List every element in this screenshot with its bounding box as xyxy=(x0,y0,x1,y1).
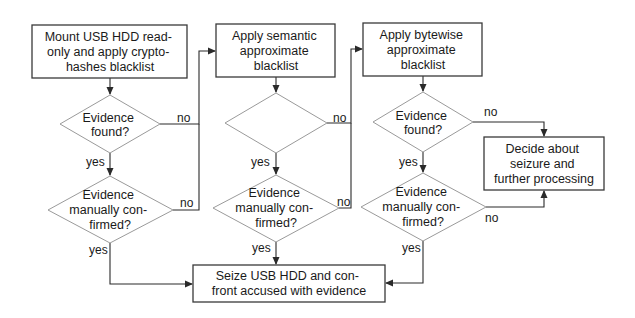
label-q2-found-yes: yes xyxy=(251,155,270,169)
edge-q1-confirmed-yes xyxy=(110,243,192,284)
node-text-line: Decide about xyxy=(505,142,579,156)
label-q2-confirmed-no: no xyxy=(337,195,351,209)
label-q3-confirmed-yes: yes xyxy=(402,241,421,255)
label-q1-found-yes: yes xyxy=(86,155,105,169)
decision-q2-evidence-confirmed: Evidence manually con- firmed? xyxy=(213,175,339,242)
node-text-line: found? xyxy=(91,125,129,139)
node-text-line: firmed? xyxy=(89,218,131,232)
edges xyxy=(110,49,544,284)
node-text-line: Evidence xyxy=(249,186,300,200)
node-text-line: Evidence xyxy=(83,188,134,202)
edge-q3-found-no xyxy=(473,122,544,136)
node-text-line: Apply semantic xyxy=(232,29,317,43)
decision-q3-evidence-confirmed: Evidence manually con- firmed? xyxy=(361,173,486,241)
label-q1-confirmed-no: no xyxy=(180,196,194,210)
decision-q1-evidence-found: Evidence found? xyxy=(60,95,160,153)
node-text-line: Evidence xyxy=(83,111,134,125)
label-q1-found-no: no xyxy=(177,111,191,125)
node-text-line: seizure and xyxy=(510,157,575,171)
label-q2-confirmed-yes: yes xyxy=(252,241,271,255)
label-q1-confirmed-yes: yes xyxy=(89,243,108,257)
decision-q2-evidence-found xyxy=(225,93,327,153)
decision-q1-evidence-confirmed: Evidence manually con- firmed? xyxy=(48,176,173,243)
node-text-line: firmed? xyxy=(402,215,444,229)
node-text-line: Apply bytewise xyxy=(380,28,463,42)
node-text-line: approximate xyxy=(240,44,309,58)
node-text-line: firmed? xyxy=(255,216,297,230)
label-q3-found-no: no xyxy=(484,105,498,119)
node-apply-bytewise: Apply bytewise approximate blacklist xyxy=(363,23,482,76)
node-text-line: manually con- xyxy=(235,201,313,215)
node-text-line: manually con- xyxy=(69,203,147,217)
node-text-line: Seize USB HDD and con- xyxy=(216,269,359,283)
label-q3-confirmed-no: no xyxy=(485,211,499,225)
node-text-line: blacklist xyxy=(254,59,299,73)
node-text-line: Evidence xyxy=(396,185,447,199)
node-apply-semantic: Apply semantic approximate blacklist xyxy=(216,24,335,77)
flowchart: Mount USB HDD read- only and apply crypt… xyxy=(0,0,635,318)
node-decide-about-seizure: Decide about seizure and further process… xyxy=(484,137,604,190)
node-text-line: only and apply crypto- xyxy=(47,45,169,59)
svg-text:Seize USB HDD and con- f: Seize USB HDD and con- front accused wit… xyxy=(212,269,366,298)
node-text-line: Mount USB HDD read- xyxy=(45,30,172,44)
node-text-line: manually con- xyxy=(382,200,460,214)
node-text-line: front accused with evidence xyxy=(212,284,366,298)
node-text-line: approximate xyxy=(387,43,456,57)
node-text-line: further processing xyxy=(494,172,594,186)
label-q2-found-no: no xyxy=(333,111,347,125)
node-mount-usb-hdd: Mount USB HDD read- only and apply crypt… xyxy=(32,25,187,78)
label-q3-found-yes: yes xyxy=(399,155,418,169)
node-text-line: blacklist xyxy=(401,58,446,72)
node-text-line: Evidence xyxy=(396,109,447,123)
decision-q3-evidence-found: Evidence found? xyxy=(373,92,473,152)
node-text-line: found? xyxy=(404,123,442,137)
node-text-line: hashes blacklist xyxy=(66,60,155,74)
edge-q3-confirmed-no xyxy=(486,191,544,207)
node-seize-usb-hdd: Seize USB HDD and con- front accused wit… xyxy=(193,265,385,302)
